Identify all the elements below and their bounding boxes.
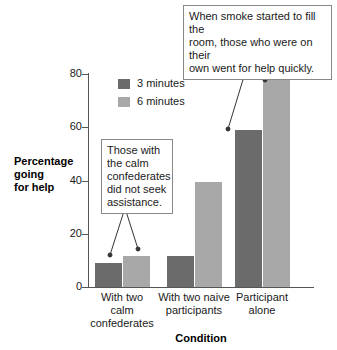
bar-6-minutes xyxy=(195,182,222,287)
annotation-line: the calm xyxy=(107,157,167,170)
legend-item: 6 minutes xyxy=(118,94,185,109)
y-tick-label: 60 xyxy=(58,121,82,132)
annotation-line: confederates xyxy=(107,170,167,183)
bar-3-minutes xyxy=(95,263,122,287)
x-axis-line xyxy=(88,287,314,288)
legend-label: 3 minutes xyxy=(137,76,185,91)
annotation-line: Those with xyxy=(107,144,167,157)
y-tick-label: 20 xyxy=(58,228,82,239)
bar-3-minutes xyxy=(235,130,262,287)
bar-6-minutes xyxy=(263,78,290,287)
bar-6-minutes xyxy=(123,256,150,287)
legend-swatch-icon xyxy=(118,97,130,107)
legend-swatch-icon xyxy=(118,79,130,89)
bar-3-minutes xyxy=(167,256,194,287)
bar-chart-figure: 020406080 With twocalmconfederatesWith t… xyxy=(0,0,337,350)
x-category-label: Participantalone xyxy=(214,291,310,317)
annotation-line: When smoke started to fill the xyxy=(189,10,326,36)
y-axis-title: Percentagegoingfor help xyxy=(14,155,84,194)
annotation-line: did not seek xyxy=(107,183,167,196)
y-tick-mark xyxy=(82,287,88,288)
annotation-callout-participant-alone: When smoke started to fill theroom, thos… xyxy=(183,5,332,80)
annotation-line: own went for help quickly. xyxy=(189,62,326,75)
annotation-callout-calm-confederates: Those withthe calmconfederatesdid not se… xyxy=(101,139,173,214)
legend-label: 6 minutes xyxy=(137,94,185,109)
x-axis-title: Condition xyxy=(88,332,314,344)
annotation-line: room, those who were on their xyxy=(189,36,326,62)
bar-group xyxy=(235,74,290,287)
legend-item: 3 minutes xyxy=(118,76,185,91)
annotation-line: assistance. xyxy=(107,196,167,209)
y-tick-label: 80 xyxy=(58,68,82,79)
chart-legend: 3 minutes6 minutes xyxy=(118,76,185,112)
